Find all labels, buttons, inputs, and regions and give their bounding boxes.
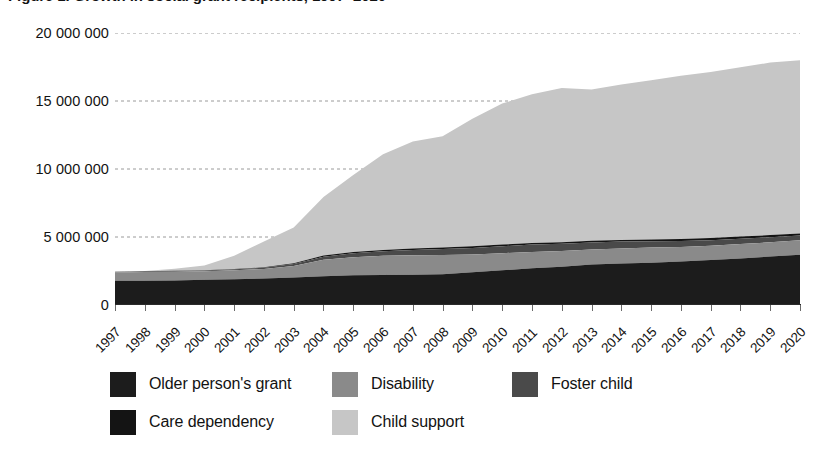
chart-title: Figure 1. Growth in social grant recipie… bbox=[8, 0, 386, 4]
x-tick-mark bbox=[145, 305, 146, 311]
x-tick-label: 2016 bbox=[658, 324, 689, 355]
x-tick-label: 2008 bbox=[420, 324, 451, 355]
x-tick-mark bbox=[383, 305, 384, 311]
x-tick-label: 2007 bbox=[390, 324, 421, 355]
x-tick-label: 1997 bbox=[92, 324, 123, 355]
x-tick-label: 2018 bbox=[718, 324, 749, 355]
x-tick-mark bbox=[443, 305, 444, 311]
x-tick-mark bbox=[413, 305, 414, 311]
x-tick-mark bbox=[264, 305, 265, 311]
x-tick-mark bbox=[740, 305, 741, 311]
x-tick-mark bbox=[592, 305, 593, 311]
legend-item[interactable]: Foster child bbox=[512, 372, 633, 397]
legend-label: Child support bbox=[371, 413, 464, 431]
x-tick-label: 2013 bbox=[569, 324, 600, 355]
x-tick-label: 2020 bbox=[777, 324, 808, 355]
legend-swatch bbox=[332, 372, 358, 397]
legend-swatch bbox=[512, 372, 538, 397]
legend-item[interactable]: Care dependency bbox=[110, 410, 274, 435]
x-tick-label: 2012 bbox=[539, 324, 570, 355]
x-tick-mark bbox=[323, 305, 324, 311]
x-tick-mark bbox=[204, 305, 205, 311]
legend-label: Older person's grant bbox=[149, 375, 291, 393]
x-axis: 1997199819992000200120022003200420052006… bbox=[115, 305, 800, 367]
x-tick-mark bbox=[234, 305, 235, 311]
x-tick-label: 2010 bbox=[480, 324, 511, 355]
x-tick-mark bbox=[651, 305, 652, 311]
chart-figure: Figure 1. Growth in social grant recipie… bbox=[0, 0, 816, 467]
x-tick-label: 2011 bbox=[509, 325, 540, 356]
y-tick-label: 20 000 000 bbox=[3, 25, 109, 41]
legend-swatch bbox=[332, 410, 358, 435]
x-tick-label: 2002 bbox=[241, 324, 272, 355]
legend-swatch bbox=[110, 410, 136, 435]
x-tick-label: 2017 bbox=[688, 324, 719, 355]
x-tick-mark bbox=[800, 305, 801, 311]
x-tick-mark bbox=[621, 305, 622, 311]
x-tick-label: 2014 bbox=[599, 324, 630, 355]
x-tick-label: 2003 bbox=[271, 324, 302, 355]
x-tick-mark bbox=[115, 305, 116, 311]
x-tick-label: 2015 bbox=[628, 324, 659, 355]
x-tick-mark bbox=[175, 305, 176, 311]
x-tick-mark bbox=[711, 305, 712, 311]
x-tick-mark bbox=[770, 305, 771, 311]
x-tick-label: 2004 bbox=[301, 324, 332, 355]
legend-label: Disability bbox=[371, 375, 434, 393]
x-tick-label: 2009 bbox=[450, 324, 481, 355]
x-tick-mark bbox=[562, 305, 563, 311]
legend-swatch bbox=[110, 372, 136, 397]
x-tick-label: 2006 bbox=[360, 324, 391, 355]
y-tick-label: 15 000 000 bbox=[3, 93, 109, 109]
x-tick-label: 2000 bbox=[182, 324, 213, 355]
x-tick-mark bbox=[353, 305, 354, 311]
x-tick-label: 2005 bbox=[331, 324, 362, 355]
x-tick-label: 1999 bbox=[152, 324, 183, 355]
y-tick-label: 5 000 000 bbox=[3, 229, 109, 245]
x-tick-mark bbox=[472, 305, 473, 311]
y-axis: 05 000 00010 000 00015 000 00020 000 000 bbox=[0, 33, 109, 305]
chart-legend: Older person's grantDisabilityFoster chi… bbox=[110, 384, 810, 464]
legend-item[interactable]: Disability bbox=[332, 372, 434, 397]
legend-label: Foster child bbox=[551, 375, 633, 393]
x-tick-mark bbox=[294, 305, 295, 311]
x-tick-label: 2001 bbox=[211, 324, 242, 355]
x-tick-mark bbox=[502, 305, 503, 311]
legend-item[interactable]: Older person's grant bbox=[110, 372, 291, 397]
x-tick-mark bbox=[681, 305, 682, 311]
x-tick-label: 1998 bbox=[122, 324, 153, 355]
legend-item[interactable]: Child support bbox=[332, 410, 464, 435]
x-tick-mark bbox=[532, 305, 533, 311]
y-tick-label: 10 000 000 bbox=[3, 161, 109, 177]
plot-area bbox=[115, 33, 800, 305]
x-tick-label: 2019 bbox=[748, 324, 779, 355]
y-tick-label: 0 bbox=[3, 297, 109, 313]
stacked-area-plot bbox=[115, 33, 800, 305]
legend-label: Care dependency bbox=[149, 413, 274, 431]
